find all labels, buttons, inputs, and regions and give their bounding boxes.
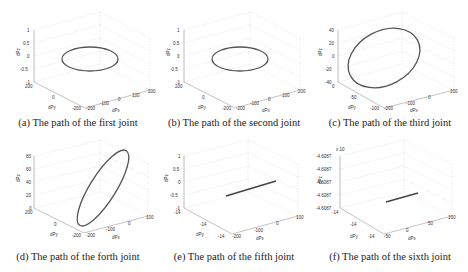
svg-text:0: 0: [268, 97, 271, 102]
svg-text:100: 100: [146, 215, 154, 220]
caption-e: (e) The path of the fifth joint: [156, 251, 312, 262]
plot-3d-e: 1 0.5 0 -0.5 -1 -14 -14 -14 -200 -100 0 …: [156, 136, 312, 256]
svg-text:200: 200: [175, 84, 183, 89]
svg-text:-100: -100: [100, 101, 110, 106]
svg-text:60: 60: [26, 167, 32, 172]
svg-text:-0.5: -0.5: [170, 67, 178, 72]
svg-text:-4.6087: -4.6087: [316, 193, 332, 198]
path-ellipse-d: [69, 144, 138, 232]
svg-text:-40: -40: [325, 80, 332, 85]
caption-b: (b) The path of the second joint: [156, 117, 312, 128]
svg-text:dPy: dPy: [50, 232, 59, 237]
svg-text:0: 0: [177, 54, 180, 59]
path-line-e: [226, 181, 276, 196]
svg-text:-4.6087: -4.6087: [316, 206, 332, 211]
svg-text:-200: -200: [232, 234, 242, 239]
svg-text:50: 50: [428, 221, 434, 226]
svg-text:dPx: dPx: [410, 108, 419, 113]
svg-text:dPz: dPz: [16, 47, 21, 56]
svg-text:dPy: dPy: [348, 105, 357, 110]
caption-c: (c) The path of the third joint: [312, 117, 468, 128]
svg-text:-200: -200: [72, 106, 82, 111]
svg-text:0: 0: [276, 221, 279, 226]
svg-text:0: 0: [202, 95, 205, 100]
path-line-f: [386, 193, 418, 202]
svg-text:dPy: dPy: [196, 232, 205, 237]
svg-text:-14: -14: [368, 234, 375, 239]
plot-3d-a: 1 0.5 0 -0.5 -1 200 0 -200 -200 -100 0 1…: [0, 0, 156, 120]
svg-text:0: 0: [27, 54, 30, 59]
chart-panel-c: 40 20 0 -20 -40 0 -50 -100 -200 -100 0 1…: [312, 0, 468, 136]
svg-text:200: 200: [25, 84, 33, 89]
svg-text:20: 20: [329, 41, 335, 46]
svg-text:100: 100: [296, 215, 304, 220]
svg-text:100: 100: [282, 93, 290, 98]
svg-text:-100: -100: [406, 101, 416, 106]
svg-text:-200: -200: [86, 233, 96, 238]
path-ellipse-b: [212, 47, 268, 71]
svg-text:-200: -200: [384, 106, 394, 111]
svg-text:-14: -14: [218, 234, 225, 239]
svg-text:dPy: dPy: [350, 234, 359, 239]
svg-text:0: 0: [52, 95, 55, 100]
svg-text:-14: -14: [174, 210, 181, 215]
svg-text:-100: -100: [370, 106, 380, 111]
svg-text:0.5: 0.5: [173, 167, 180, 172]
svg-text:0: 0: [54, 222, 57, 227]
svg-text:-100: -100: [106, 227, 116, 232]
plot-3d-f: x 10 -4.6087 -4.6087 -4.6087 -4.6087 -4.…: [312, 136, 468, 256]
svg-text:0: 0: [332, 84, 335, 89]
caption-d: (d) The path of the forth joint: [0, 251, 156, 262]
svg-text:0: 0: [406, 228, 409, 233]
svg-text:-0.5: -0.5: [20, 67, 28, 72]
svg-text:40: 40: [329, 28, 335, 33]
svg-text:dPz: dPz: [16, 173, 21, 182]
plot-3d-c: 40 20 0 -20 -40 0 -50 -100 -200 -100 0 1…: [312, 0, 468, 120]
plot-3d-d: 80 60 40 20 0 200 0 -200 -200 -100 0 100…: [0, 136, 156, 256]
svg-text:1: 1: [178, 154, 181, 159]
svg-text:-0.5: -0.5: [170, 193, 178, 198]
svg-text:200: 200: [148, 89, 156, 94]
caption-f: (f) The path of the sixth joint: [312, 251, 468, 262]
svg-text:-100: -100: [250, 101, 260, 106]
chart-panel-b: 1 0.5 0 -0.5 -1 200 0 -200 -200 -100 0 1…: [156, 0, 312, 136]
svg-text:dPz: dPz: [164, 173, 169, 182]
svg-text:80: 80: [26, 154, 32, 159]
svg-text:-50: -50: [384, 234, 391, 239]
svg-text:40: 40: [26, 180, 32, 185]
svg-text:100: 100: [132, 93, 140, 98]
svg-text:100: 100: [448, 215, 456, 220]
chart-panel-e: 1 0.5 0 -0.5 -1 -14 -14 -14 -200 -100 0 …: [156, 136, 312, 272]
svg-text:dPx: dPx: [112, 235, 121, 240]
plot-3d-b: 1 0.5 0 -0.5 -1 200 0 -200 -200 -100 0 1…: [156, 0, 312, 120]
svg-text:-4.6087: -4.6087: [316, 154, 332, 159]
svg-text:-200: -200: [222, 106, 232, 111]
svg-text:200: 200: [298, 89, 306, 94]
svg-text:-200: -200: [236, 106, 246, 111]
chart-panel-a: 1 0.5 0 -0.5 -1 200 0 -200 -200 -100 0 1…: [0, 0, 156, 136]
path-ellipse-a: [62, 47, 118, 71]
svg-text:0.5: 0.5: [23, 41, 30, 46]
svg-text:dPz: dPz: [318, 175, 323, 184]
svg-text:0: 0: [332, 54, 335, 59]
svg-text:200: 200: [25, 210, 33, 215]
svg-text:-50: -50: [350, 95, 357, 100]
svg-text:-20: -20: [325, 67, 332, 72]
svg-text:100: 100: [450, 89, 458, 94]
svg-text:-100: -100: [254, 228, 264, 233]
svg-text:0: 0: [428, 95, 431, 100]
chart-panel-d: 80 60 40 20 0 200 0 -200 -200 -100 0 100…: [0, 136, 156, 272]
svg-text:-4.6087: -4.6087: [316, 167, 332, 172]
svg-text:-200: -200: [86, 106, 96, 111]
caption-a: (a) The path of the first joint: [0, 117, 156, 128]
svg-text:dPz: dPz: [166, 47, 171, 56]
svg-text:dPx: dPx: [256, 236, 265, 241]
svg-text:dPx: dPx: [112, 108, 121, 113]
svg-text:x 10: x 10: [336, 147, 345, 152]
svg-text:dPx: dPx: [262, 108, 271, 113]
svg-text:0: 0: [118, 97, 121, 102]
svg-text:-14: -14: [200, 222, 207, 227]
svg-text:20: 20: [26, 193, 32, 198]
svg-text:-14: -14: [350, 222, 357, 227]
svg-text:-200: -200: [72, 233, 82, 238]
